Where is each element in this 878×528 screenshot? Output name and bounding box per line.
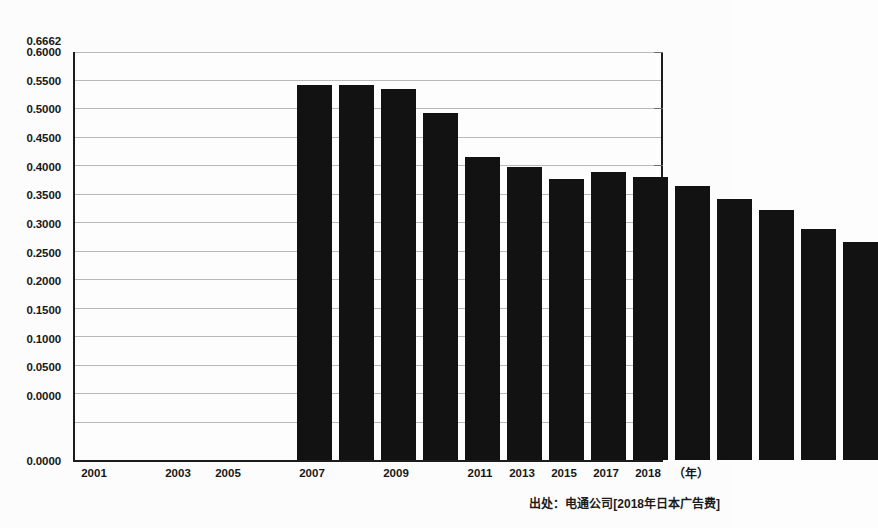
bars-group — [73, 52, 663, 462]
y-tick-label: 0.4000 — [26, 162, 61, 174]
y-tick-label: 0.1000 — [26, 334, 61, 346]
x-tick-label: 2013 — [509, 468, 535, 480]
bar-2012 — [591, 172, 626, 460]
y-tick-label: 0.6000 — [26, 47, 61, 59]
y-tick-label: 0.3000 — [26, 219, 61, 231]
plot-area — [73, 52, 663, 462]
x-axis-tick-labels: 2001 2003 2005 2007 2009 2011 2013 2015 … — [0, 468, 730, 490]
y-tick-label: 0.0000 — [26, 456, 61, 468]
y-tick-label: 0.5500 — [26, 76, 61, 88]
x-tick-label: 2005 — [215, 468, 241, 480]
x-tick-label: 2018 — [635, 468, 661, 480]
x-tick-label: 2007 — [299, 468, 325, 480]
source-note: 出处：电通公司[2018年日本广告费] — [529, 498, 720, 510]
bar-2016 — [759, 210, 794, 460]
bar-2018 — [843, 242, 878, 460]
y-tick-label: 0.2500 — [26, 248, 61, 260]
x-tick-label: 2015 — [551, 468, 577, 480]
bar-2008 — [423, 113, 458, 460]
y-tick-label: 0.0000 — [26, 391, 61, 403]
x-axis-unit-label: （年） — [673, 468, 709, 480]
y-axis-tick-labels: 0.6662 0.6000 0.5500 0.5000 0.4500 0.400… — [0, 0, 68, 528]
bar-2017 — [801, 229, 836, 460]
x-tick-label: 2001 — [81, 468, 107, 480]
bar-2011 — [549, 179, 584, 460]
y-tick-label: 0.5000 — [26, 104, 61, 116]
bar-2010 — [507, 167, 542, 460]
x-tick-label: 2011 — [468, 468, 493, 480]
bar-2015 — [717, 199, 752, 460]
y-tick-label: 0.2000 — [26, 276, 61, 288]
y-tick-label: 0.4500 — [26, 133, 61, 145]
x-tick-label: 2017 — [593, 468, 619, 480]
x-tick-label: 2009 — [383, 468, 409, 480]
bar-2006 — [339, 85, 374, 460]
x-tick-label: 2003 — [165, 468, 191, 480]
bar-2007 — [381, 89, 416, 460]
bar-2013 — [633, 177, 668, 460]
y-tick-label: 0.0500 — [26, 362, 61, 374]
y-tick-label: 0.1500 — [26, 305, 61, 317]
bar-2014 — [675, 186, 710, 460]
bar-2005 — [297, 85, 332, 460]
bar-2009 — [465, 157, 500, 460]
y-tick-label: 0.3500 — [26, 190, 61, 202]
